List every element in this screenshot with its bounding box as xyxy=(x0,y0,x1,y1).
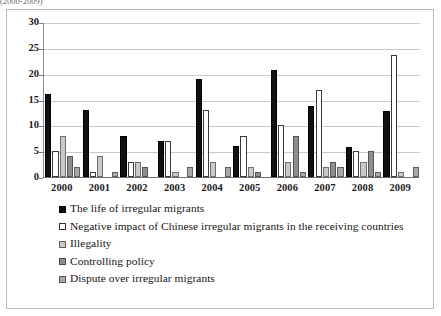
bar xyxy=(90,172,96,177)
x-tick-label: 2002 xyxy=(118,182,156,196)
x-tick-label: 2001 xyxy=(81,182,119,196)
x-axis-labels: 2000200120022003200420052006200720082009 xyxy=(43,182,419,196)
bar xyxy=(158,141,164,177)
bar xyxy=(271,70,277,177)
x-tick-label: 2009 xyxy=(381,182,419,196)
figure-border-box: 051015202530 200020012002200320042005200… xyxy=(6,9,434,309)
x-tick-label: 2005 xyxy=(231,182,269,196)
bar xyxy=(300,172,306,177)
chart-legend: The life of irregular migrantsNegative i… xyxy=(59,202,431,290)
bar xyxy=(74,167,80,177)
bar xyxy=(360,162,366,178)
y-tick-label: 25 xyxy=(13,43,39,54)
bar-group xyxy=(157,22,195,177)
bar xyxy=(375,172,381,177)
bar xyxy=(60,136,66,177)
legend-item-label: Controlling policy xyxy=(70,255,155,268)
y-tick-label: 10 xyxy=(13,120,39,131)
bar xyxy=(337,167,343,177)
bar xyxy=(83,110,89,177)
bar xyxy=(120,136,126,177)
bar xyxy=(255,172,261,177)
legend-swatch-icon xyxy=(59,206,66,213)
bar xyxy=(196,79,202,177)
y-tick-label: 5 xyxy=(13,146,39,157)
y-tick-label: 20 xyxy=(13,69,39,80)
bar xyxy=(383,111,389,177)
bar xyxy=(240,136,246,177)
bar-group xyxy=(307,22,345,177)
bar-group xyxy=(270,22,308,177)
bar xyxy=(97,156,103,177)
bar-group xyxy=(382,22,420,177)
bar xyxy=(142,167,148,177)
bar xyxy=(112,172,118,177)
bar-chart: 051015202530 200020012002200320042005200… xyxy=(7,12,435,194)
y-tick-mark xyxy=(39,178,43,179)
x-tick-label: 2000 xyxy=(43,182,81,196)
bar xyxy=(368,151,374,177)
legend-swatch-icon xyxy=(59,258,66,265)
x-tick-label: 2004 xyxy=(193,182,231,196)
bar xyxy=(308,106,314,177)
x-tick-label: 2007 xyxy=(306,182,344,196)
plot-area xyxy=(43,23,419,178)
bar-group xyxy=(194,22,232,177)
legend-item: Illegality xyxy=(59,237,431,250)
bar xyxy=(165,141,171,177)
bar-group xyxy=(82,22,120,177)
bar xyxy=(45,94,51,177)
x-tick-label: 2008 xyxy=(344,182,382,196)
legend-item-label: Illegality xyxy=(70,237,112,250)
bar xyxy=(210,162,216,178)
bar-group xyxy=(232,22,270,177)
bar xyxy=(135,162,141,178)
bar-group xyxy=(119,22,157,177)
bar xyxy=(233,146,239,177)
bar xyxy=(391,55,397,177)
bar xyxy=(398,172,404,177)
legend-item-label: Dispute over irregular migrants xyxy=(70,272,215,285)
y-tick-label: 30 xyxy=(13,17,39,28)
bar xyxy=(353,151,359,177)
bar xyxy=(330,162,336,178)
legend-item: Controlling policy xyxy=(59,255,431,268)
bar xyxy=(67,156,73,177)
bar xyxy=(278,125,284,177)
bar xyxy=(316,90,322,177)
y-tick-label: 0 xyxy=(13,172,39,183)
bar xyxy=(128,162,134,178)
legend-swatch-icon xyxy=(59,241,66,248)
caption-fragment: (2000-2009) xyxy=(0,0,441,6)
bar xyxy=(248,167,254,177)
legend-item: Dispute over irregular migrants xyxy=(59,272,431,285)
legend-item: Negative impact of Chinese irregular mig… xyxy=(59,220,431,233)
bar xyxy=(52,151,58,177)
legend-item-label: Negative impact of Chinese irregular mig… xyxy=(70,220,404,233)
bar xyxy=(346,147,352,177)
bar xyxy=(293,136,299,177)
legend-item-label: The life of irregular migrants xyxy=(70,202,204,215)
figure-root: (2000-2009) 051015202530 200020012002200… xyxy=(0,0,441,316)
x-tick-label: 2006 xyxy=(269,182,307,196)
legend-item: The life of irregular migrants xyxy=(59,202,431,215)
bar xyxy=(285,162,291,178)
bar xyxy=(203,110,209,177)
bar-group xyxy=(44,22,82,177)
bar-group xyxy=(345,22,383,177)
bar xyxy=(187,167,193,177)
bar xyxy=(323,167,329,177)
y-axis: 051015202530 xyxy=(7,23,39,178)
bar xyxy=(225,167,231,177)
y-tick-label: 15 xyxy=(13,95,39,106)
bar xyxy=(172,172,178,177)
x-tick-label: 2003 xyxy=(156,182,194,196)
bar xyxy=(413,167,419,177)
legend-swatch-icon xyxy=(59,276,66,283)
bar-groups xyxy=(44,22,420,177)
legend-swatch-icon xyxy=(59,223,66,230)
